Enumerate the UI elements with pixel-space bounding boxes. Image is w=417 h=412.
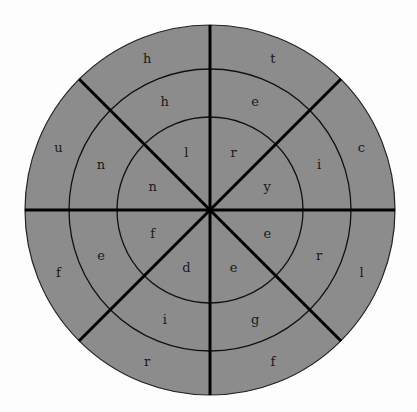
letter-cell: h [143, 51, 152, 66]
letter-cell: l [359, 265, 363, 280]
letter-cell: e [97, 248, 105, 263]
letter-cell: i [317, 157, 321, 172]
letter-cell: l [184, 145, 188, 160]
letter-cell: g [251, 312, 259, 327]
word-wheel-board: tclfrfuheirgienhryeedfnl [0, 0, 417, 412]
spokes [25, 25, 395, 395]
letter-cell: e [251, 94, 259, 109]
letter-cell: h [161, 94, 170, 109]
letter-cell: n [149, 179, 158, 194]
letter-cell: y [263, 179, 272, 194]
letter-cell: n [97, 157, 106, 172]
letter-cell: r [316, 248, 323, 263]
letter-cell: d [182, 260, 190, 275]
letter-cell: t [270, 51, 276, 66]
letter-cell: r [144, 354, 151, 369]
letter-cell: r [231, 145, 238, 160]
letter-cell: e [230, 260, 238, 275]
letter-cell: i [163, 312, 167, 327]
letter-cell: c [358, 140, 365, 155]
letter-cell: u [54, 140, 62, 155]
letter-cell: e [263, 226, 271, 241]
